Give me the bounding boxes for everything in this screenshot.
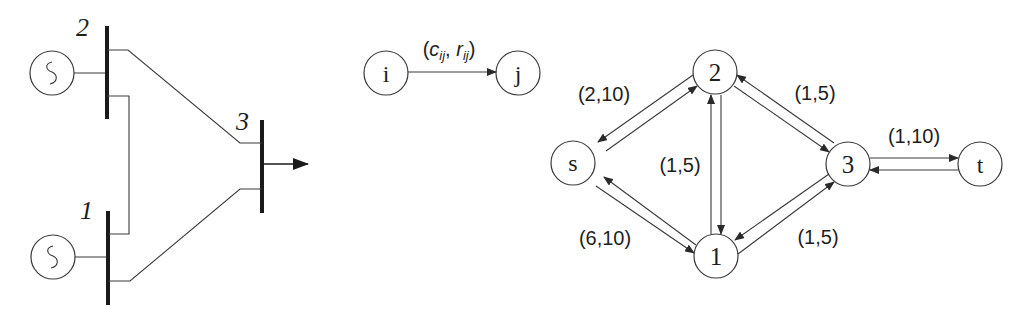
node-s-label: s [568,150,577,176]
edge-label-s-2: (2,10) [578,83,630,105]
bus-3-label: 3 [235,107,249,136]
edge-label-1-2: (1,5) [659,154,700,176]
generator-1 [31,235,108,279]
power-system-diagram: 2 1 3 [30,13,308,305]
node-2-label: 2 [709,59,722,86]
generator-icon [31,235,75,279]
line-1-3 [108,189,262,281]
node-3-label: 3 [842,151,855,178]
bus-1-label: 1 [80,196,93,225]
node-s: s [551,141,595,185]
generator-icon [30,51,74,95]
node-1: 1 [694,234,738,278]
legend-node-j-label: j [514,61,522,87]
node-2: 2 [693,50,737,94]
node-t-label: t [977,152,984,178]
edge-label-1-3: (1,5) [797,226,838,248]
edge-label-2-3: (1,5) [794,82,835,104]
legend-edge-label: (cij, rij) [423,38,476,63]
line-2-1 [107,96,129,234]
diagram-canvas: 2 1 3 i j (cij, rij) s [0,0,1026,312]
node-1-label: 1 [710,243,723,270]
flow-network: s 2 1 3 t (2,10) (6,10) (1,5) (1,5) (1,5… [551,50,1002,278]
bus-2-label: 2 [76,13,89,42]
node-t: t [958,142,1002,186]
edge-label-3-t: (1,10) [888,125,940,147]
generator-2 [30,51,107,95]
node-3: 3 [826,142,870,186]
legend-node-i-label: i [383,61,390,87]
edge-label-s-1: (6,10) [579,227,631,249]
edge-legend: i j (cij, rij) [364,38,540,95]
